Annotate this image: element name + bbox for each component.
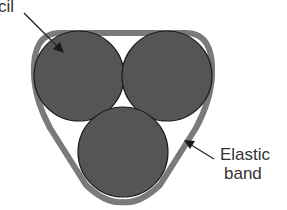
pencil-top-left — [34, 31, 124, 121]
pencil-label: cil — [0, 0, 14, 16]
elastic-band-label-line2: band — [220, 164, 270, 183]
elastic-band-label-line1: Elastic — [220, 145, 270, 164]
band-arrow — [184, 140, 214, 159]
pencil-bottom — [78, 107, 168, 197]
pencil-top-right — [122, 31, 212, 121]
elastic-band-label: Elastic band — [220, 145, 270, 183]
